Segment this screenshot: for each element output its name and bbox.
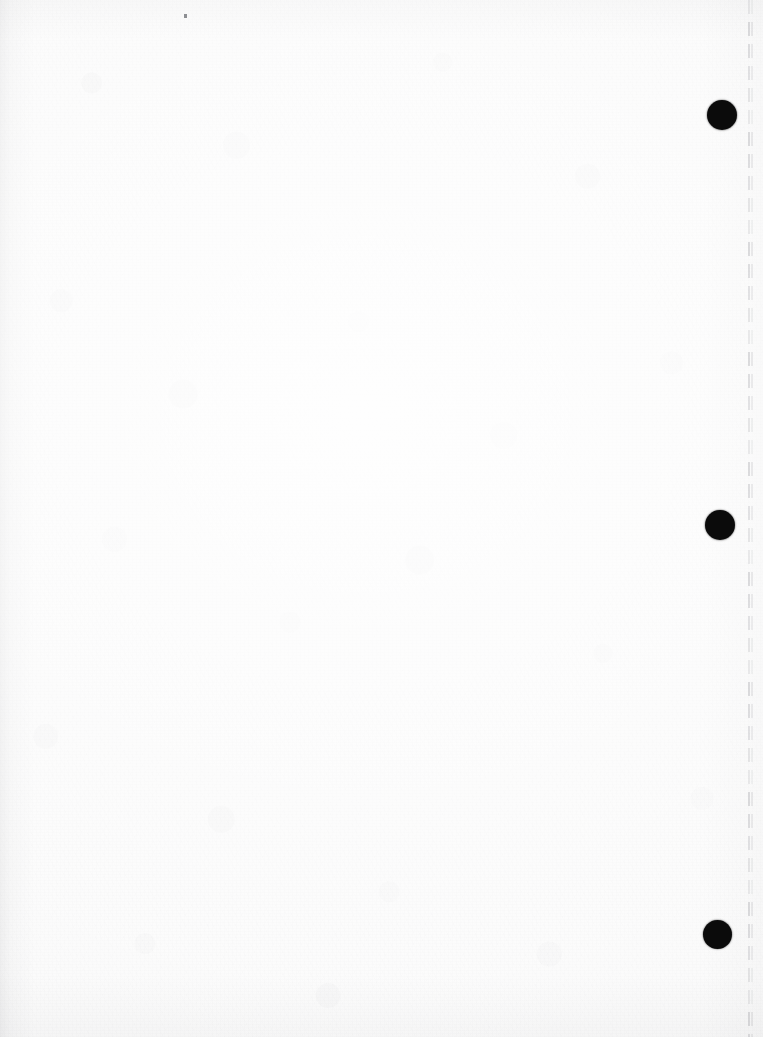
- punch-hole-bottom: [703, 920, 732, 949]
- scan-illumination: [0, 0, 763, 1037]
- perforation-line-ghost: [751, 0, 753, 1037]
- scanned-page: [0, 0, 763, 1037]
- punch-hole-top: [707, 100, 737, 130]
- scan-speck: [184, 14, 187, 18]
- perforation-line: [748, 0, 750, 1037]
- punch-hole-middle: [705, 510, 735, 540]
